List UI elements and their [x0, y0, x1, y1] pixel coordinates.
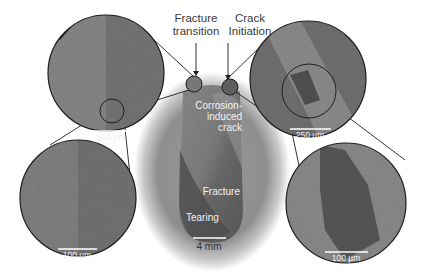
label-crack-initiation: Crack Initiation — [222, 12, 278, 38]
fractography-figure — [0, 0, 425, 279]
scale-label-4mm: 4 mm — [189, 241, 229, 252]
label-tearing: Tearing — [186, 212, 226, 223]
micrograph-bottom-right — [284, 140, 409, 265]
crack-initiation-circle — [222, 79, 238, 95]
scale-label-bottom-right: 100 µm — [326, 254, 366, 263]
label-fracture: Fracture — [196, 186, 240, 197]
scale-label-top-right: 250 µm — [290, 131, 330, 140]
scale-label-top-left: 500 µm — [91, 133, 131, 142]
scale-label-bottom-left: 100 µm — [57, 251, 97, 260]
label-fracture-transition: Fracture transition — [163, 12, 229, 38]
label-corrosion-induced-crack: Corrosion- induced crack — [190, 100, 242, 133]
fracture-transition-circle — [186, 76, 202, 92]
